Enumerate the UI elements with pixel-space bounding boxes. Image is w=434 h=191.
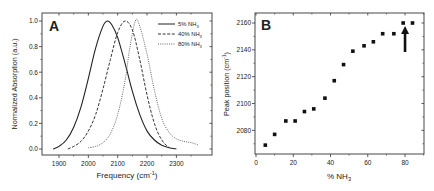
data-point [284, 119, 288, 123]
y-tick-label: 2100 [237, 100, 252, 107]
y-tick-label: 0.4 [29, 94, 38, 101]
curves-group [53, 19, 198, 149]
x-tick-label: 60 [364, 159, 372, 166]
y-tick-label: 0.0 [29, 145, 38, 152]
y-tick-label: 0.8 [29, 43, 38, 50]
y-tick-label: 2140 [237, 46, 252, 53]
arrow-annotation [401, 26, 409, 52]
y-tick-label: 1.0 [29, 17, 38, 24]
legend-label: 5% NH3​ [178, 21, 199, 29]
series-line-solid [53, 21, 176, 149]
panel-a-svg: 190020002100220023000.00.20.40.60.81.0A5… [0, 0, 217, 191]
y-tick-label: 2080 [237, 127, 252, 134]
x-tick-label: 1900 [52, 160, 67, 167]
x-tick-label: 2200 [140, 160, 155, 167]
data-point [332, 79, 336, 83]
x-tick-label: 40 [327, 159, 335, 166]
plot-frame [255, 13, 424, 154]
panel-b-peak-position-chart: 02040608020802100212021402160B% NH3​Peak… [217, 0, 434, 191]
legend-label: 80% NH3​ [178, 41, 203, 49]
data-point [342, 63, 346, 67]
x-axis-label: % NH3​ [327, 172, 351, 182]
data-point [303, 110, 307, 114]
scatter-points [264, 21, 415, 147]
data-point [293, 119, 297, 123]
y-tick-label: 2160 [237, 19, 252, 26]
data-point [401, 21, 405, 25]
legend: 5% NH3​40% NH3​80% NH3​ [158, 21, 203, 49]
data-point [362, 44, 366, 48]
data-point [411, 21, 415, 25]
data-point [372, 40, 376, 44]
panel-b-svg: 02040608020802100212021402160B% NH3​Peak… [217, 0, 434, 191]
y-axis-label: Normalized Absorption (a.u.) [10, 38, 19, 129]
panel-a-spectra-chart: 190020002100220023000.00.20.40.60.81.0A5… [0, 0, 217, 191]
y-tick-label: 0.6 [29, 69, 38, 76]
x-tick-label: 2100 [110, 160, 125, 167]
data-point [381, 32, 385, 36]
arrow-up-icon [401, 26, 409, 34]
panel-label-b: B [261, 17, 271, 33]
x-tick-label: 0 [254, 159, 258, 166]
data-point [312, 107, 316, 111]
x-tick-label: 80 [401, 159, 409, 166]
x-tick-label: 20 [290, 159, 298, 166]
data-point [351, 49, 355, 53]
y-axis-label-group: Peak position (cm-1​) [221, 52, 231, 116]
x-axis-label: Frequency (cm-1​) [96, 170, 157, 180]
data-point [264, 143, 268, 147]
data-point [273, 133, 277, 137]
panel-label-a: A [49, 18, 59, 34]
data-point [323, 96, 327, 100]
legend-label: 40% NH3​ [178, 31, 203, 39]
y-tick-label: 2120 [237, 73, 252, 80]
x-tick-label: 2000 [81, 160, 96, 167]
y-tick-label: 0.2 [29, 120, 38, 127]
x-tick-label: 2300 [169, 160, 184, 167]
data-point [392, 32, 396, 36]
y-axis-label: Peak position (cm-1​) [221, 52, 231, 116]
